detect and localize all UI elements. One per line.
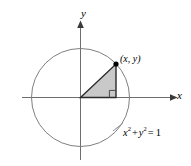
figure-canvas: [0, 0, 191, 166]
equation-equals-operator: =: [147, 127, 155, 138]
y-axis-arrowhead: [77, 21, 84, 29]
equation-plus-operator: +: [131, 127, 139, 138]
circle-equation-label: x2+y2=1: [123, 126, 162, 138]
x-axis-label: x: [177, 90, 182, 101]
point-marker-dot: [113, 61, 118, 66]
point-coordinate-label: (x, y): [120, 54, 141, 64]
y-axis-label: y: [81, 8, 86, 19]
equation-right-hand-side: 1: [155, 127, 162, 138]
unit-circle-figure: y x (x, y) x2+y2=1: [0, 0, 191, 166]
reference-triangle: [81, 64, 117, 98]
